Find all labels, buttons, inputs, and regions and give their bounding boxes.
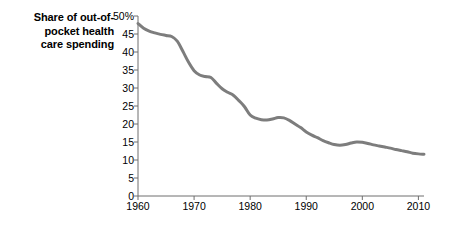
axis-lines [138,16,424,196]
data-series-line [138,24,424,155]
plot-area [138,16,424,196]
axis-ticks [134,16,418,200]
chart-figure: Share of out-of- pocket health care spen… [0,0,452,239]
plot-svg [138,16,438,216]
